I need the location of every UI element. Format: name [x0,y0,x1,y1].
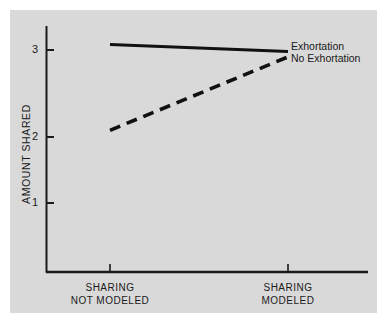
x-category-label-1-line2: MODELED [228,295,348,308]
series-line-exhortation [110,45,288,52]
y-axis-title: AMOUNT SHARED [20,94,32,214]
x-category-label-1: SHARING MODELED [228,282,348,307]
series-line-no-exhortation [110,57,288,130]
legend-label-no-exhortation: No Exhortation [291,53,360,64]
figure-canvas: 3 2 1 AMOUNT SHARED SHARING NOT MODELED … [0,0,388,323]
legend-label-exhortation: Exhortation [291,41,344,52]
x-category-label-0-line2: NOT MODELED [50,295,170,308]
x-category-label-0: SHARING NOT MODELED [50,282,170,307]
y-tick-label-3: 3 [22,44,38,55]
x-category-label-0-line1: SHARING [50,282,170,295]
x-category-label-1-line1: SHARING [228,282,348,295]
